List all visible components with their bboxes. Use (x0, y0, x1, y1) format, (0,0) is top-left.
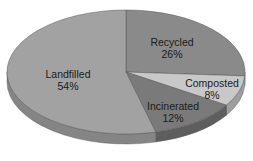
slice-value-recycled: 26% (161, 48, 182, 60)
slice-label-recycled: Recycled (150, 36, 193, 48)
slice-label-composted: Composted (185, 77, 239, 89)
slice-value-composted: 8% (204, 89, 219, 101)
slice-label-landfilled: Landfilled (46, 68, 91, 80)
slice-value-incinerated: 12% (162, 112, 183, 124)
slice-value-landfilled: 54% (57, 80, 78, 92)
pie-chart: Recycled26%Composted8%Incinerated12%Land… (0, 0, 253, 161)
slice-label-incinerated: Incinerated (147, 100, 199, 112)
